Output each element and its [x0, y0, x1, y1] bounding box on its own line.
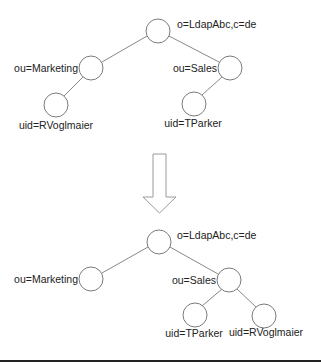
label-tparker: uid=TParker	[164, 117, 222, 129]
down-arrow-icon	[143, 154, 176, 213]
node-sales	[218, 56, 242, 80]
label-sales: ou=Sales	[173, 62, 217, 74]
edge-sales-tparker	[202, 77, 222, 95]
node-tparker	[183, 303, 207, 327]
node-rvoglmaier	[44, 93, 68, 117]
node-tparker	[182, 92, 206, 116]
label-rvoglmaier: uid=RVoglmaier	[229, 326, 304, 338]
label-tparker: uid=TParker	[165, 327, 223, 339]
edge-root-sales	[170, 247, 218, 274]
label-marketing: ou=Marketing	[14, 273, 78, 285]
edge-root-sales	[169, 36, 219, 62]
node-marketing	[79, 56, 103, 80]
ldap-tree-diagram: o=LdapAbc,c=de ou=Marketing ou=Sales uid…	[0, 0, 321, 362]
edge-sales-rvoglmaier	[237, 289, 256, 307]
node-sales	[217, 268, 241, 292]
edge-root-marketing	[102, 247, 148, 273]
node-rvoglmaier	[252, 304, 276, 328]
label-marketing: ou=Marketing	[14, 62, 78, 74]
label-rvoglmaier: uid=RVoglmaier	[19, 119, 94, 131]
edge-marketing-rvoglmaier	[64, 77, 83, 96]
node-marketing	[79, 267, 103, 291]
label-sales: ou=Sales	[172, 274, 216, 286]
node-root	[147, 230, 171, 254]
label-root: o=LdapAbc,c=de	[177, 229, 257, 241]
label-root: o=LdapAbc,c=de	[177, 18, 257, 30]
edge-sales-tparker	[202, 289, 222, 306]
edge-root-marketing	[102, 36, 147, 62]
node-root	[146, 19, 170, 43]
